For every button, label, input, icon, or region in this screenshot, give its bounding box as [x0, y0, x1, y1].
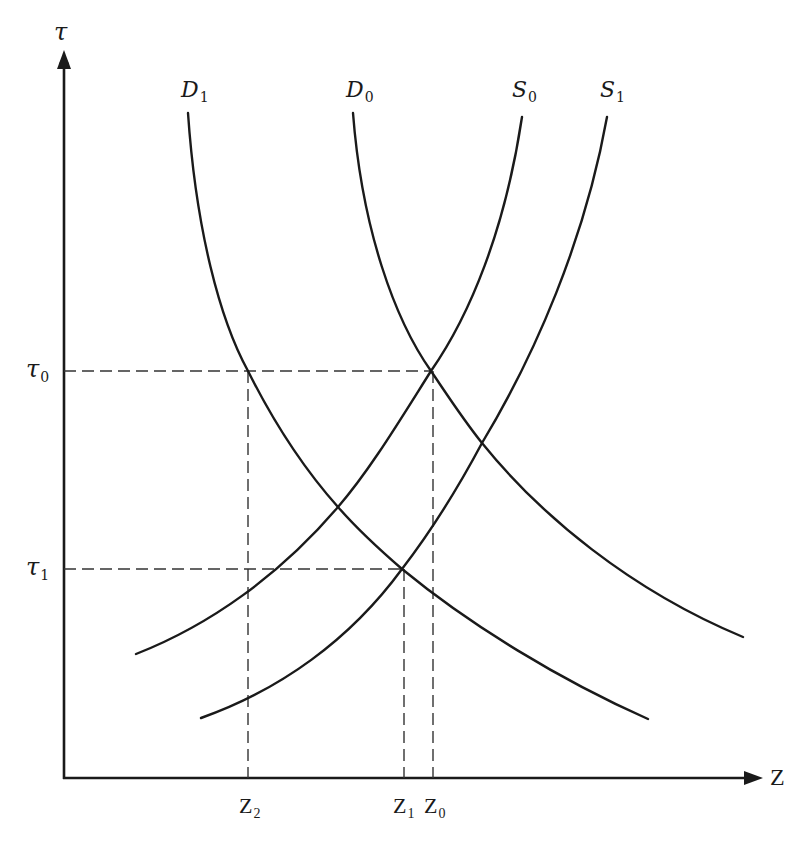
x-tick-z0: Z0	[424, 795, 445, 821]
curve-label-base: S	[512, 77, 527, 102]
y-tick-tau0: τ0	[26, 357, 49, 384]
tick-label-sub: 0	[438, 806, 445, 821]
demand-curve-d0	[353, 113, 743, 637]
curve-label-sub: 1	[200, 89, 209, 105]
tick-label-sub: 1	[40, 567, 49, 583]
tick-label-base: τ	[26, 553, 39, 581]
curve-label-s0: S0	[512, 79, 537, 104]
demand-curve-d1	[188, 113, 648, 719]
curve-label-sub: 0	[528, 89, 537, 105]
curve-label-s1: S1	[600, 79, 625, 104]
curve-label-base: D	[181, 77, 199, 102]
tick-label-base: Z	[393, 793, 406, 818]
x-axis-label: Z	[770, 765, 785, 789]
curve-label-d1: D1	[181, 79, 209, 104]
y-tick-tau1: τ1	[26, 555, 49, 582]
tick-label-base: Z	[239, 793, 252, 818]
x-tick-z1: Z1	[393, 795, 414, 821]
curve-label-sub: 1	[616, 89, 625, 105]
tick-label-sub: 2	[253, 806, 260, 821]
y-axis-arrowhead-icon	[57, 50, 71, 69]
tick-label-sub: 0	[40, 369, 49, 385]
curve-label-d0: D0	[346, 79, 374, 104]
guide-lines	[64, 371, 433, 778]
x-axis-arrowhead-icon	[744, 771, 763, 785]
x-tick-z2: Z2	[239, 795, 260, 821]
tick-label-sub: 1	[407, 806, 414, 821]
tick-label-base: Z	[424, 793, 437, 818]
supply-curve-s0	[136, 117, 522, 654]
curve-label-base: D	[346, 77, 364, 102]
y-axis-label: τ	[54, 20, 67, 44]
curve-label-base: S	[600, 77, 615, 102]
supply-demand-diagram	[0, 0, 811, 842]
curve-label-sub: 0	[365, 89, 374, 105]
tick-label-base: τ	[26, 355, 39, 383]
